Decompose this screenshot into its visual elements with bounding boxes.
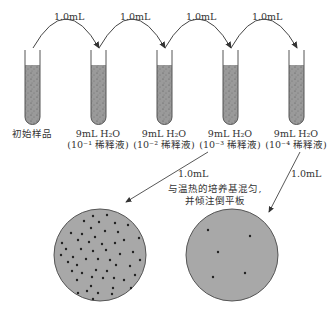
- arc-label-1: 1.0mL: [54, 11, 84, 22]
- tube-label-line2: (10⁻⁴ 稀释液): [264, 139, 328, 150]
- tube-label-line1: 9mL H₂O: [264, 128, 328, 139]
- arc-label-4: 1.0mL: [252, 11, 282, 22]
- dilution-diagram: [0, 0, 334, 320]
- petri-plate-1: [54, 209, 146, 301]
- arc-label-2: 1.0mL: [120, 11, 150, 22]
- petri-plate-2: [186, 209, 278, 301]
- tube-label-line1: 9mL H₂O: [198, 128, 262, 139]
- plate-note-line2: 并倾注倒平板: [160, 195, 270, 207]
- plate-arrow-label-2: 1.0mL: [291, 168, 321, 179]
- transfer-arcs: [33, 19, 297, 48]
- test-tube-1: [91, 50, 106, 125]
- arrow-to-plate-2: [269, 152, 300, 212]
- arc-4: [231, 19, 297, 48]
- tube-label-2: 9mL H₂O (10⁻² 稀释液): [132, 128, 196, 150]
- tube-label-4: 9mL H₂O (10⁻⁴ 稀释液): [264, 128, 328, 150]
- plate-arrow-label-1: 1.0mL: [178, 168, 208, 179]
- tube-label-1: 9mL H₂O (10⁻¹ 稀释液): [66, 128, 130, 150]
- tube-label-line2: (10⁻¹ 稀释液): [66, 139, 130, 150]
- tube-label-line2: (10⁻² 稀释液): [132, 139, 196, 150]
- test-tubes: [25, 50, 304, 125]
- test-tube-3: [223, 50, 238, 125]
- test-tube-2: [157, 50, 172, 125]
- arc-1: [33, 19, 99, 48]
- tube-label-initial: 初始样品: [4, 128, 60, 139]
- arc-label-3: 1.0mL: [186, 11, 216, 22]
- plate-note: 与温热的培养基混匀, 并倾注倒平板: [160, 183, 270, 207]
- arc-3: [165, 19, 231, 48]
- tube-label-line1: 初始样品: [4, 128, 60, 139]
- plate-note-line1: 与温热的培养基混匀,: [160, 183, 270, 195]
- tube-label-line2: (10⁻³ 稀释液): [198, 139, 262, 150]
- tube-label-3: 9mL H₂O (10⁻³ 稀释液): [198, 128, 262, 150]
- tube-label-line1: 9mL H₂O: [132, 128, 196, 139]
- test-tube-initial: [25, 50, 40, 125]
- arc-2: [99, 19, 165, 48]
- test-tube-4: [289, 50, 304, 125]
- tube-label-line1: 9mL H₂O: [66, 128, 130, 139]
